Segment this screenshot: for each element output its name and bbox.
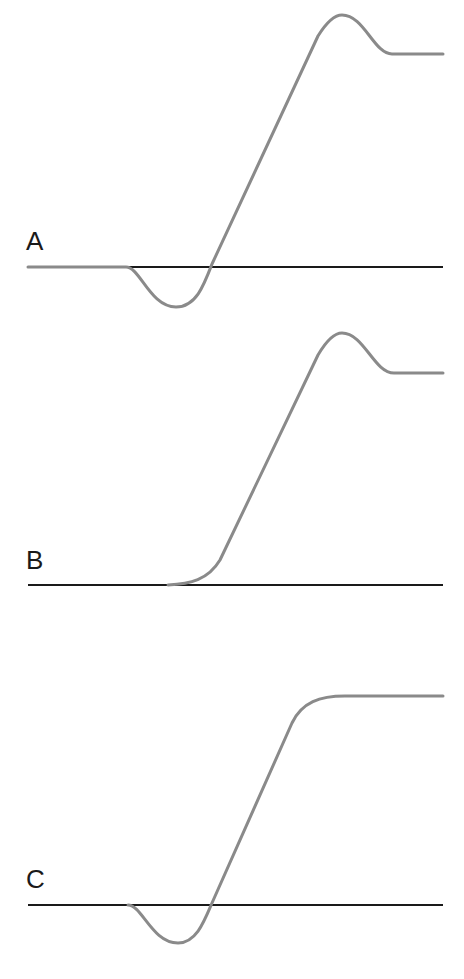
panel-label-c: C [26, 866, 45, 892]
panel-label-b: B [26, 547, 43, 573]
panel-label-a: A [26, 228, 43, 254]
waveform-diagram [0, 0, 464, 979]
waveform-curve-b [168, 333, 443, 585]
waveform-curve-a [28, 15, 443, 307]
